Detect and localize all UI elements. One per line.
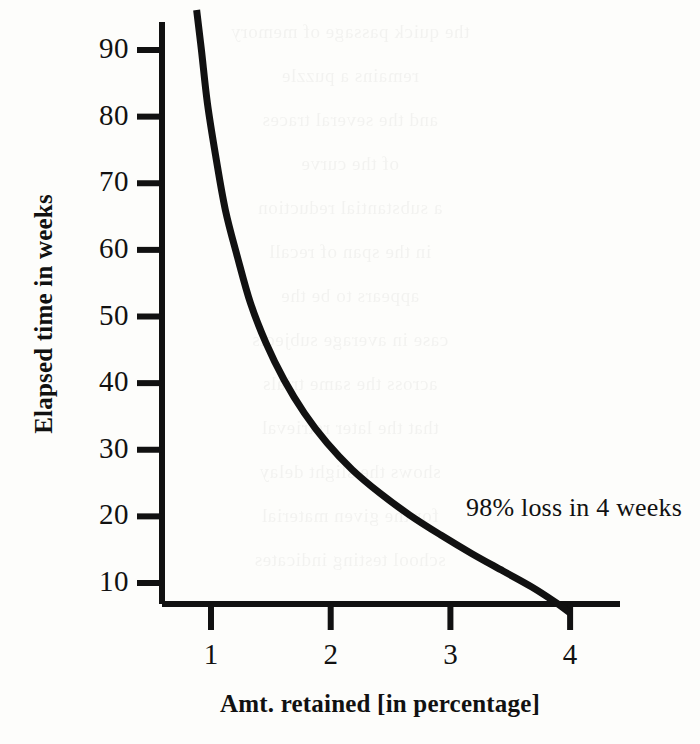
y-tick-label: 30: [55, 434, 129, 463]
chart-annotation: 98% loss in 4 weeks: [466, 494, 682, 522]
y-tick-label: 40: [55, 367, 129, 396]
x-axis-title: Amt. retained [in percentage]: [120, 690, 640, 718]
y-tick-label: 20: [55, 500, 129, 529]
y-tick-label: 70: [55, 167, 129, 196]
y-tick-label: 60: [55, 234, 129, 263]
y-tick-label: 10: [55, 567, 129, 596]
x-tick-label: 3: [430, 640, 470, 669]
figure-container: the quick passage of memoryremains a puz…: [0, 0, 700, 744]
y-tick-label: 80: [55, 101, 129, 130]
y-tick-label: 50: [55, 301, 129, 330]
x-tick-label: 2: [311, 640, 351, 669]
chart-tick-marks: [137, 50, 570, 630]
y-tick-label: 90: [55, 34, 129, 63]
decay-curve: [197, 10, 570, 613]
x-tick-label: 1: [191, 640, 231, 669]
x-tick-label: 4: [550, 640, 590, 669]
y-axis-title: Elapsed time in weeks: [30, 184, 58, 444]
